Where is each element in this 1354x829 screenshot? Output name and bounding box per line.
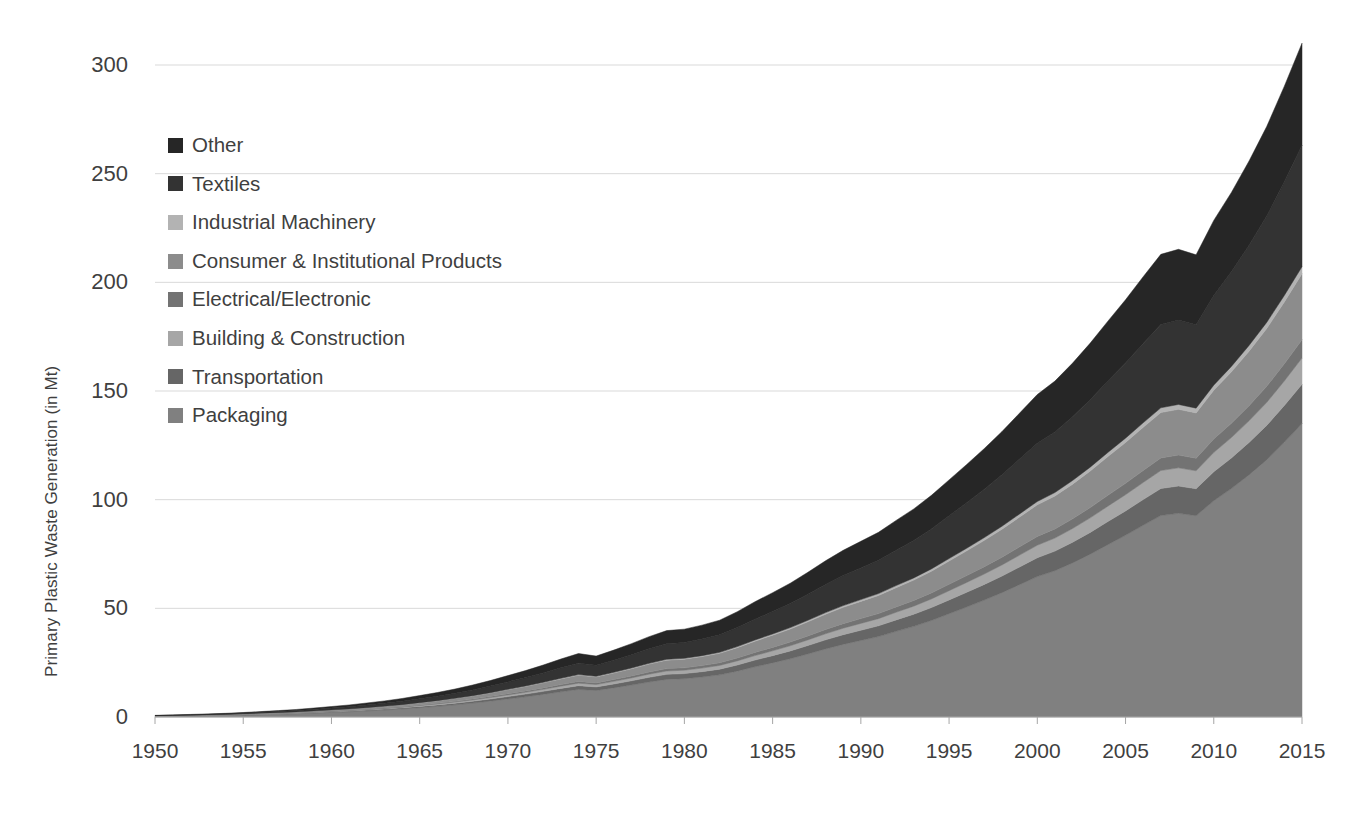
legend-swatch-transportation <box>168 369 183 384</box>
legend-swatch-textiles <box>168 176 183 191</box>
legend-swatch-consumer-institutional-products <box>168 254 183 269</box>
legend-label-other: Other <box>192 135 243 156</box>
legend-label-electrical-electronic: Electrical/Electronic <box>192 289 371 310</box>
x-axis-tick-2015: 2015 <box>1262 740 1342 761</box>
legend-item-building-construction[interactable]: Building & Construction <box>168 319 608 358</box>
y-axis-tick-0: 0 <box>68 706 128 728</box>
legend-label-transportation: Transportation <box>192 367 323 388</box>
axis-lines <box>155 717 1302 724</box>
legend-label-industrial-machinery: Industrial Machinery <box>192 212 375 233</box>
x-axis-tick-1995: 1995 <box>909 740 989 761</box>
legend: OtherTextilesIndustrial MachineryConsume… <box>168 126 608 435</box>
legend-item-textiles[interactable]: Textiles <box>168 165 608 204</box>
stacked-area-chart: Primary Plastic Waste Generation (in Mt)… <box>0 0 1354 829</box>
legend-item-consumer-institutional-products[interactable]: Consumer & Institutional Products <box>168 242 608 281</box>
y-axis-title: Primary Plastic Waste Generation (in Mt) <box>42 366 62 677</box>
x-axis-tick-2005: 2005 <box>1086 740 1166 761</box>
legend-item-packaging[interactable]: Packaging <box>168 396 608 435</box>
y-axis-tick-150: 150 <box>68 380 128 402</box>
x-axis-tick-1990: 1990 <box>821 740 901 761</box>
legend-label-packaging: Packaging <box>192 405 288 426</box>
legend-item-transportation[interactable]: Transportation <box>168 358 608 397</box>
x-axis-tick-1950: 1950 <box>115 740 195 761</box>
x-axis-tick-1970: 1970 <box>468 740 548 761</box>
legend-swatch-electrical-electronic <box>168 292 183 307</box>
y-axis-tick-200: 200 <box>68 271 128 293</box>
x-axis-tick-1985: 1985 <box>733 740 813 761</box>
legend-label-building-construction: Building & Construction <box>192 328 405 349</box>
x-axis-tick-2010: 2010 <box>1174 740 1254 761</box>
legend-item-industrial-machinery[interactable]: Industrial Machinery <box>168 203 608 242</box>
y-axis-tick-100: 100 <box>68 489 128 511</box>
legend-swatch-industrial-machinery <box>168 215 183 230</box>
x-axis-tick-1965: 1965 <box>380 740 460 761</box>
y-axis-tick-250: 250 <box>68 163 128 185</box>
y-axis-tick-300: 300 <box>68 54 128 76</box>
legend-label-textiles: Textiles <box>192 174 260 195</box>
legend-item-other[interactable]: Other <box>168 126 608 165</box>
legend-swatch-packaging <box>168 408 183 423</box>
y-axis-tick-50: 50 <box>68 597 128 619</box>
x-axis-tick-2000: 2000 <box>997 740 1077 761</box>
legend-swatch-building-construction <box>168 331 183 346</box>
x-axis-tick-1955: 1955 <box>203 740 283 761</box>
legend-swatch-other <box>168 138 183 153</box>
x-axis-tick-1960: 1960 <box>291 740 371 761</box>
legend-label-consumer-institutional-products: Consumer & Institutional Products <box>192 251 502 272</box>
legend-item-electrical-electronic[interactable]: Electrical/Electronic <box>168 280 608 319</box>
x-axis-tick-1980: 1980 <box>644 740 724 761</box>
x-axis-tick-1975: 1975 <box>556 740 636 761</box>
